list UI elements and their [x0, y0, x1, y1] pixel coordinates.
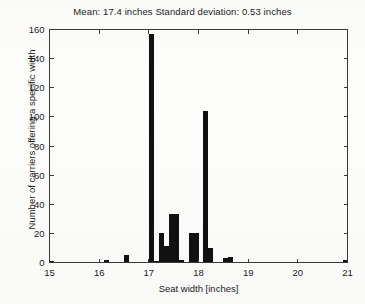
y-tick-label: 0 — [39, 257, 44, 268]
histogram-figure: Mean: 17.4 inches Standard deviation: 0.… — [0, 0, 365, 304]
x-tick-labels: 15161718192021 — [44, 267, 353, 278]
x-tick-label: 21 — [342, 267, 353, 278]
x-tick-label: 17 — [144, 267, 155, 278]
histogram-bar — [223, 258, 228, 262]
x-tick-label: 20 — [293, 267, 304, 278]
y-tick-labels: 020406080100120140160 — [29, 24, 45, 268]
x-tick-label: 16 — [94, 267, 105, 278]
histogram-bar — [124, 255, 129, 262]
histogram-bar — [169, 214, 174, 262]
histogram-bar — [159, 233, 164, 262]
y-tick-label: 100 — [29, 111, 45, 122]
histogram-bar — [164, 246, 169, 262]
axis-frame — [50, 30, 348, 263]
histogram-bar — [228, 257, 233, 263]
y-tick-label: 20 — [34, 228, 45, 239]
histogram-bar — [194, 233, 199, 262]
y-tick-label: 60 — [34, 170, 45, 181]
y-tick-label: 80 — [34, 141, 45, 152]
x-tick-label: 15 — [44, 267, 55, 278]
histogram-bar — [174, 214, 179, 262]
axes-group — [50, 30, 348, 263]
bars-group — [50, 34, 348, 263]
y-tick-label: 120 — [29, 82, 45, 93]
y-tick-label: 40 — [34, 199, 45, 210]
plot-canvas: 15161718192021 020406080100120140160 — [0, 0, 365, 304]
histogram-bar — [203, 111, 208, 262]
histogram-bar — [208, 248, 213, 263]
x-tick-label: 19 — [243, 267, 254, 278]
histogram-bar — [189, 233, 194, 262]
y-tick-label: 160 — [29, 24, 45, 35]
x-tick-label: 18 — [193, 267, 204, 278]
histogram-bar — [149, 34, 154, 263]
y-tick-label: 140 — [29, 53, 45, 64]
